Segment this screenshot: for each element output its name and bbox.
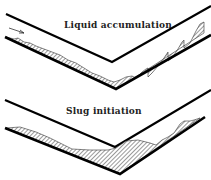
panel-slug-initiation <box>5 90 211 174</box>
panel-title-liquid-accumulation: Liquid accumulation <box>64 20 172 30</box>
panel-liquid-accumulation <box>5 6 211 89</box>
liquid-slug <box>6 118 200 174</box>
flow-arrow-icon <box>9 28 24 33</box>
panel-title-slug-initiation: Slug initiation <box>66 106 142 116</box>
